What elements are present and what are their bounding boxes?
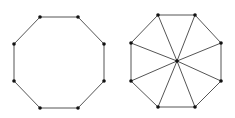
cycle-edge [78,17,104,44]
vertex-dot [219,41,223,45]
cycle-edge [195,81,221,107]
vertex-dot [12,42,16,46]
vertex-dot [156,105,160,109]
vertex-dot [193,105,197,109]
spoke-edge [131,43,177,61]
vertex-dot [76,15,80,19]
spoke-edge [177,43,221,61]
cycle-edge [14,81,40,108]
cycle-edge [14,17,40,44]
vertex-dot [193,13,197,17]
vertex-dot [102,42,106,46]
vertex-dot [76,106,80,110]
vertex-dot [156,13,160,17]
octagon-wheel-graph [129,13,223,109]
vertex-dot [38,106,42,110]
cycle-edge [195,15,221,43]
vertex-dot [38,15,42,19]
diagram-canvas [0,0,235,118]
vertex-dot [12,79,16,83]
spoke-edge [158,15,177,61]
spoke-edge [177,15,195,61]
vertex-dot [129,41,133,45]
cycle-edge [131,81,158,107]
vertex-dot [129,79,133,83]
cycle-edge [78,81,104,108]
vertex-dot [219,79,223,83]
hub-vertex-dot [175,59,179,63]
octagon-cycle-graph [12,15,106,110]
vertex-dot [102,79,106,83]
cycle-edge [131,15,158,43]
